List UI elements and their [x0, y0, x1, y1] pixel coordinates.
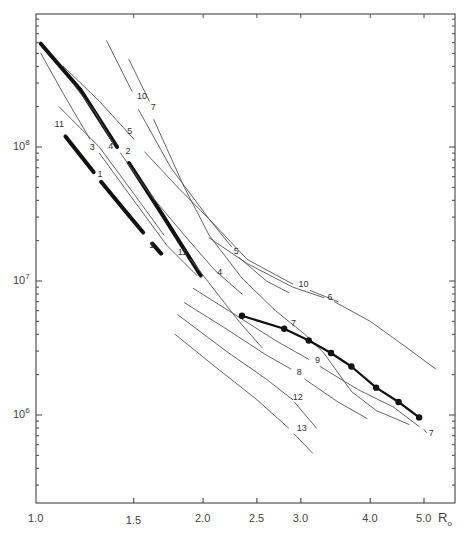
curve-label-7: 7 [429, 428, 434, 438]
y-tick-label: 106 [13, 406, 30, 420]
x-tick-label: 2.0 [195, 512, 210, 524]
y-tick-label: 107 [13, 272, 30, 286]
data-point-marker [395, 399, 401, 405]
curve-9 [320, 367, 419, 427]
x-axis-title: Ro [438, 510, 452, 528]
curve-10 [139, 110, 293, 284]
curve-8 [305, 379, 367, 418]
curve-label-10: 10 [298, 279, 308, 289]
curve-7 [154, 120, 409, 425]
curve-label-12: 12 [293, 392, 303, 402]
observed-data-markers [239, 313, 423, 421]
curve-label-5: 5 [127, 126, 132, 136]
x-tick-label: 2.5 [249, 512, 264, 524]
x-tick-label: 4.0 [362, 512, 377, 524]
curve-10 [107, 41, 133, 92]
data-point-marker [416, 414, 422, 420]
curve-label-4: 4 [108, 141, 113, 151]
curve-label-13: 13 [297, 423, 307, 433]
data-point-marker [306, 337, 312, 343]
curve-11 [59, 107, 164, 235]
curve-1 [101, 182, 143, 233]
curve-7 [424, 430, 426, 433]
curve-label-8: 8 [297, 367, 302, 377]
curve-4 [121, 153, 243, 294]
data-point-marker [348, 363, 354, 369]
curve-label-5: 5 [234, 246, 239, 256]
curve-10 [310, 291, 338, 302]
curve-12 [178, 315, 293, 400]
curve-11 [191, 259, 262, 347]
x-tick-label: 1.0 [28, 512, 43, 524]
curve-13 [175, 334, 289, 428]
x-tick-label: 1.5 [126, 514, 141, 526]
x-tick-label: 3.0 [293, 512, 308, 524]
curve-label-11: 11 [55, 119, 64, 129]
plot-frame [36, 14, 455, 503]
curve-6 [335, 302, 436, 369]
curve-5 [63, 66, 133, 139]
curve-label-1: 1 [97, 169, 102, 179]
y-tick-label: 108 [13, 138, 30, 152]
curve-label-11: 11 [178, 247, 187, 257]
curve-label-2: 2 [126, 146, 131, 156]
data-point-marker [373, 384, 379, 390]
curve-label-7: 7 [291, 318, 296, 328]
curve-label-3: 3 [90, 142, 95, 152]
curve-13 [294, 434, 312, 453]
curve-label-7: 7 [151, 102, 156, 112]
curve-label-9: 9 [315, 355, 320, 365]
curve-2 [41, 44, 117, 147]
curve-label-10: 10 [137, 91, 147, 101]
curve-label-4: 4 [217, 267, 222, 277]
x-tick-label: 5.0 [416, 512, 431, 524]
observed-curve [242, 316, 419, 418]
data-point-marker [281, 326, 287, 332]
chart: 1.01.52.02.53.04.05.0 106107108 11342511… [0, 0, 470, 537]
curve-label-1: 1 [149, 240, 154, 250]
curve-label-6: 6 [327, 292, 332, 302]
data-point-marker [328, 350, 334, 356]
data-point-marker [239, 313, 245, 319]
